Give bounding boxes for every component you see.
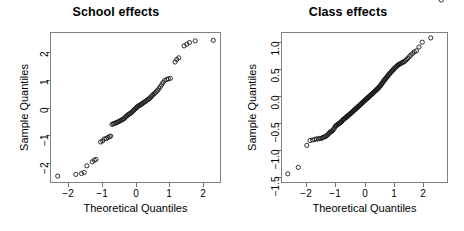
plot-frame (281, 32, 448, 183)
x-axis-tick (169, 183, 170, 187)
x-axis-tick (306, 183, 307, 187)
x-axis-tick (335, 183, 336, 187)
x-axis-tick-label: 0 (362, 188, 368, 199)
x-axis-tick-label: −1 (329, 188, 340, 199)
x-axis-tick-label: 1 (391, 188, 397, 199)
x-axis-tick (136, 183, 137, 187)
y-axis-title: Sample Quantiles (246, 32, 258, 183)
x-axis-tick-label: 2 (420, 188, 426, 199)
x-axis-tick-label: 0 (133, 188, 139, 199)
x-axis-tick-label: 1 (166, 188, 172, 199)
panel-title: School effects (0, 5, 232, 19)
x-axis-tick (394, 183, 395, 187)
x-axis-tick (203, 183, 204, 187)
panel-school-effects-qq: School effects−2−1012−2−1012Theoretical … (0, 0, 232, 231)
panel-title: Class effects (232, 5, 464, 19)
x-axis-tick-label: −2 (300, 188, 311, 199)
x-axis-tick (102, 183, 103, 187)
y-axis-title: Sample Quantiles (18, 32, 30, 183)
data-point (439, 0, 443, 2)
x-axis-tick-label: 2 (200, 188, 206, 199)
x-axis-title: Theoretical Quantiles (84, 202, 188, 214)
x-axis-tick-label: −2 (62, 188, 73, 199)
x-axis-title: Theoretical Quantiles (313, 202, 417, 214)
x-axis-tick-label: −1 (96, 188, 107, 199)
y-axis-tick-label: 2 (39, 52, 50, 92)
panel-class-effects-qq: Class effects−2−1012−1.5−1.0−0.50.00.51.… (232, 0, 464, 231)
x-axis-tick (423, 183, 424, 187)
plot-frame (50, 32, 221, 183)
y-axis-tick-label: 1.0 (270, 42, 281, 82)
x-axis-tick (68, 183, 69, 187)
x-axis-tick (365, 183, 366, 187)
qq-plot-figure: School effects−2−1012−2−1012Theoretical … (0, 0, 464, 231)
